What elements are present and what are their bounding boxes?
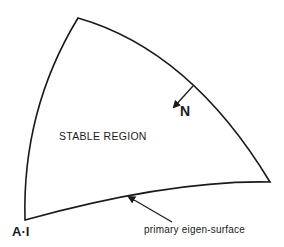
region-boundary	[25, 18, 270, 220]
stable-region-diagram: N STABLE REGION primary eigen-surface A·…	[0, 0, 284, 247]
region-label: STABLE REGION	[59, 130, 147, 142]
normal-label: N	[180, 103, 190, 119]
surface-pointer-arrow	[129, 197, 172, 222]
vertex-label: A·I	[12, 224, 29, 239]
surface-label: primary eigen-surface	[144, 224, 245, 235]
